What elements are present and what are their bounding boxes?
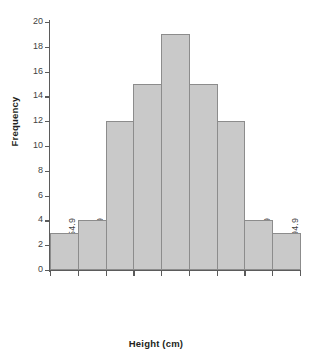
x-axis-tick: [217, 270, 218, 276]
y-axis-tick-label: 18: [7, 41, 43, 51]
histogram-bar: [50, 233, 79, 270]
y-axis-tick-label: 2: [7, 239, 43, 249]
x-axis-tick: [106, 270, 107, 276]
bar-series: [50, 22, 300, 270]
y-axis-tick-label: 0: [7, 264, 43, 274]
histogram-bar: [78, 220, 107, 270]
y-axis-tick-label: 8: [7, 165, 43, 175]
y-axis-tick-label: 16: [7, 66, 43, 76]
histogram-bar: [272, 233, 301, 270]
x-axis-tick: [133, 270, 134, 276]
histogram-bar: [133, 84, 162, 270]
y-axis-tick-label: 4: [7, 214, 43, 224]
x-axis-tick: [50, 270, 51, 276]
x-axis-tick: [272, 270, 273, 276]
histogram-bar: [161, 34, 190, 270]
x-axis-tick: [78, 270, 79, 276]
histogram-chart: Frequency 02468101214161820 150.0–154.91…: [0, 0, 312, 360]
x-axis-tick: [189, 270, 190, 276]
x-axis-tick: [244, 270, 245, 276]
histogram-bar: [189, 84, 218, 270]
y-axis-tick-label: 14: [7, 90, 43, 100]
y-axis-tick-label: 12: [7, 115, 43, 125]
histogram-bar: [244, 220, 273, 270]
y-axis-tick-label: 20: [7, 16, 43, 26]
x-axis-title: Height (cm): [0, 338, 312, 349]
y-axis-tick-label: 10: [7, 140, 43, 150]
histogram-bar: [106, 121, 135, 270]
x-axis-tick: [161, 270, 162, 276]
y-axis-tick-label: 6: [7, 190, 43, 200]
histogram-bar: [217, 121, 246, 270]
x-axis-tick: [300, 270, 301, 276]
plot-area: 02468101214161820 150.0–154.9155.0–159.9…: [50, 22, 300, 270]
